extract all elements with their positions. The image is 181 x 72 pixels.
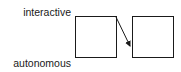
arrow-edge xyxy=(116,17,130,46)
box-left xyxy=(76,17,117,58)
diagram-canvas xyxy=(0,0,181,72)
box-right xyxy=(133,17,174,58)
